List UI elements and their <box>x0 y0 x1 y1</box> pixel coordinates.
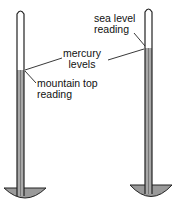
mercury-levels-label: mercury levels <box>63 48 101 70</box>
sea-level-label: sea level reading <box>94 13 135 35</box>
mountain-top-label-line2: reading <box>37 89 98 100</box>
mercury-leader-right <box>108 49 144 60</box>
sea-level-label-line2: reading <box>94 24 135 35</box>
barometer-diagram <box>0 0 175 211</box>
mountain-top-leader <box>25 71 36 83</box>
mercury-label-line2: levels <box>63 59 101 70</box>
sea-level-leader <box>134 33 145 46</box>
mountain-top-barometer <box>4 11 46 198</box>
mercury-leader-left <box>25 58 62 70</box>
mountain-top-label: mountain top reading <box>37 78 98 100</box>
sea-level-barometer <box>130 9 172 197</box>
left-mercury-dish <box>4 188 46 198</box>
